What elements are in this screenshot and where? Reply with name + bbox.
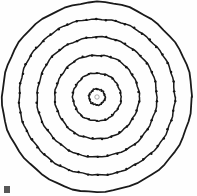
ring-node-marker <box>132 48 134 50</box>
ring-node-marker <box>170 71 172 73</box>
ring-node-marker <box>104 118 106 120</box>
ring-node-marker <box>100 90 102 92</box>
ring-node-marker <box>100 55 102 57</box>
ring-node-marker <box>35 46 37 48</box>
ring-node-marker <box>111 78 113 80</box>
ring-node-marker <box>111 114 113 116</box>
ring-node-marker <box>117 108 119 110</box>
ring-node-marker <box>135 109 137 111</box>
ring-node-marker <box>96 72 98 74</box>
ring-node-marker <box>18 102 20 104</box>
ring-node-marker <box>104 74 106 76</box>
ring-node-marker <box>22 121 24 123</box>
ring-node-marker <box>76 20 78 22</box>
ring-node-marker <box>156 145 158 147</box>
ring-node-marker <box>82 135 84 137</box>
ring-node-marker <box>104 94 106 96</box>
ring-node-marker <box>141 33 143 35</box>
ring-node-marker <box>110 136 112 138</box>
ring-node-marker <box>97 156 99 158</box>
ring-node-marker <box>38 82 40 84</box>
ring-node-marker <box>174 100 176 102</box>
ring-node-marker <box>42 40 44 42</box>
ring-node-marker <box>52 137 54 139</box>
ring-node-marker <box>101 138 103 140</box>
ring-node-marker <box>77 153 79 155</box>
ring-node-marker <box>126 125 128 127</box>
ring-node-marker <box>131 73 133 75</box>
ring-node-marker <box>66 43 68 45</box>
ring-node-marker <box>80 115 82 117</box>
ring-node-marker <box>56 110 58 112</box>
ring-node-marker <box>66 23 68 25</box>
ring-node-marker <box>109 56 111 58</box>
ring-node-marker <box>89 94 91 96</box>
ring-node-marker <box>125 66 127 68</box>
ring-node-marker <box>85 37 87 39</box>
ring-node-marker <box>96 88 98 90</box>
ring-node-marker <box>66 126 68 128</box>
ring-node-marker <box>47 129 49 131</box>
ring-node-marker <box>106 174 108 176</box>
ring-node-marker <box>36 92 38 94</box>
ring-node-marker <box>50 160 52 162</box>
ring-node-marker <box>18 92 20 94</box>
ring-node-marker <box>125 148 127 150</box>
ring-node-marker <box>68 149 70 151</box>
ring-node-marker <box>97 174 99 176</box>
ring-node-marker <box>105 19 107 21</box>
ring-node-marker <box>124 42 126 44</box>
ring-node-marker <box>41 121 43 123</box>
ring-node-marker <box>81 78 83 80</box>
ring-node-marker <box>88 118 90 120</box>
ring-node-marker <box>41 73 43 75</box>
ring-node-marker <box>87 173 89 175</box>
ring-node-marker <box>156 100 158 102</box>
ring-node-marker <box>106 154 108 156</box>
ring-node-marker <box>155 90 157 92</box>
ring-node-marker <box>134 143 136 145</box>
ring-node-marker <box>72 92 74 94</box>
ring-node-marker <box>161 53 163 55</box>
ring-node-marker <box>43 153 45 155</box>
ring-node-marker <box>85 19 87 21</box>
ring-node-marker <box>91 54 93 56</box>
ring-node-marker <box>96 120 98 122</box>
ring-node-marker <box>76 40 78 42</box>
ring-node-marker <box>72 100 74 102</box>
ring-node-marker <box>115 20 117 22</box>
ring-node-marker <box>119 92 121 94</box>
ring-node-marker <box>58 28 60 30</box>
ring-node-marker <box>155 46 157 48</box>
ring-node-marker <box>118 60 120 62</box>
ring-node-marker <box>68 169 70 171</box>
ring-node-marker <box>66 67 68 69</box>
ring-node-marker <box>87 155 89 157</box>
ring-node-marker <box>118 131 120 133</box>
ring-node-marker <box>166 128 168 130</box>
ring-node-marker <box>170 119 172 121</box>
ring-node-marker <box>73 60 75 62</box>
ring-node-marker <box>75 84 77 86</box>
ring-node-marker <box>150 119 152 121</box>
ring-node-marker <box>116 153 118 155</box>
ring-node-marker <box>120 100 122 102</box>
ring-node-marker <box>22 73 24 75</box>
ring-node-marker <box>147 128 149 130</box>
ring-node-marker <box>140 136 142 138</box>
ring-node-marker <box>92 102 94 104</box>
ring-node-marker <box>26 130 28 132</box>
ring-node-marker <box>24 63 26 65</box>
ring-node-marker <box>131 118 133 120</box>
ring-node-marker <box>91 137 93 139</box>
ring-node-marker <box>135 82 137 84</box>
ring-node-marker <box>89 98 91 100</box>
ring-node-marker <box>60 74 62 76</box>
ring-node-marker <box>125 168 127 170</box>
ring-node-marker <box>75 108 77 110</box>
ring-node-marker <box>31 138 33 140</box>
ring-node-marker <box>45 64 47 66</box>
ring-node-marker <box>73 132 75 134</box>
ring-node-marker <box>115 39 117 41</box>
ring-node-marker <box>51 55 53 57</box>
